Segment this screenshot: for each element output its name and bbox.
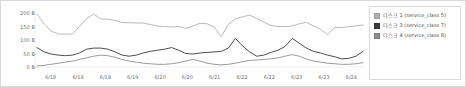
x-axis-tick-label: 6/18 <box>45 74 56 80</box>
series-line-2 <box>37 38 363 59</box>
legend-item-label: 디스크 3 (service_class 7) <box>383 22 446 29</box>
x-axis-tick-label: 6/20 <box>154 74 165 80</box>
x-axis-labels: 6/186/186/196/196/206/206/216/226/226/23… <box>37 74 365 82</box>
chart-plot-area: 200 B150 B100 B50 B0 B 6/186/186/196/196… <box>5 5 367 84</box>
x-axis-tick-label: 6/19 <box>100 74 111 80</box>
chart-widget: 200 B150 B100 B50 B0 B 6/186/186/196/196… <box>0 0 466 87</box>
x-axis-tick-label: 6/21 <box>209 74 220 80</box>
x-axis-tick-label: 6/23 <box>291 74 302 80</box>
x-axis-tick-label: 6/22 <box>236 74 247 80</box>
x-axis-tick-label: 6/22 <box>264 74 275 80</box>
x-axis-tick-label: 6/18 <box>72 74 83 80</box>
series-line-3 <box>37 55 363 66</box>
legend-item[interactable]: 디스크 3 (service_class 7) <box>374 21 457 30</box>
chart-legend: 디스크 1 (service_class 5)디스크 3 (service_cl… <box>369 6 461 80</box>
x-axis-tick-label: 6/23 <box>318 74 329 80</box>
legend-item-label: 디스크 4 (service_class 8) <box>383 32 446 39</box>
series-lines <box>5 5 367 84</box>
x-axis-tick-label: 6/20 <box>182 74 193 80</box>
legend-item[interactable]: 디스크 1 (service_class 5) <box>374 11 457 20</box>
legend-color-swatch-icon <box>374 23 380 29</box>
series-line-1 <box>37 14 363 37</box>
legend-color-swatch-icon <box>374 13 380 19</box>
legend-item-label: 디스크 1 (service_class 5) <box>383 12 446 19</box>
legend-color-swatch-icon <box>374 33 380 39</box>
x-axis-tick-label: 6/24 <box>346 74 357 80</box>
legend-item[interactable]: 디스크 4 (service_class 8) <box>374 31 457 40</box>
x-axis-tick-label: 6/19 <box>127 74 138 80</box>
